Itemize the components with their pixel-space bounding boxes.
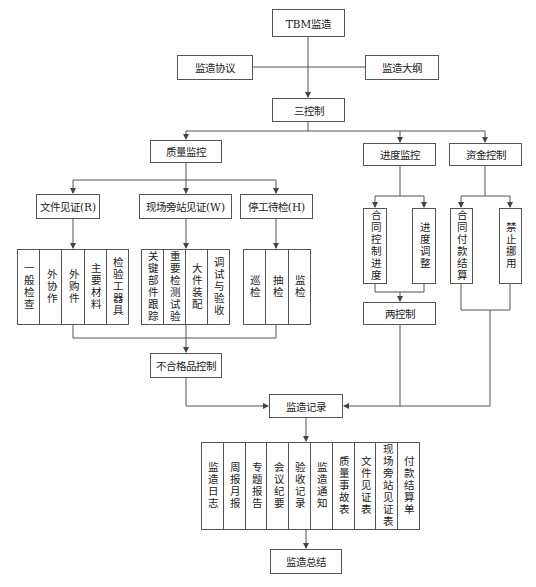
supervision-outline-node: 监造大纲: [365, 55, 439, 80]
three-controls-node: 三控制: [272, 98, 345, 122]
record-item: 会议纪要: [266, 443, 288, 529]
document-witness-node: 文件见证(R): [36, 194, 100, 219]
record-items: 监造日志 周报月报 专题报告 会议纪要 验收记录 监造通知 质量事故表 文件见证…: [201, 442, 420, 530]
two-controls-node: 两控制: [363, 302, 436, 325]
funds-control-node: 资金控制: [449, 143, 522, 166]
schedule-monitoring-node: 进度监控: [363, 143, 436, 166]
vertical-item: 重要检测试验: [163, 250, 185, 324]
vertical-item: 关键部件跟踪: [142, 250, 163, 324]
supervision-records-node: 监造记录: [269, 394, 343, 418]
hold-point-items: 巡检 抽检 监检: [243, 249, 311, 325]
vertical-item: 检验工器具: [106, 250, 128, 324]
record-item: 验收记录: [288, 443, 310, 529]
record-item: 监造通知: [310, 443, 332, 529]
vertical-item: 外购件: [61, 250, 83, 324]
vertical-item: 外协作: [39, 250, 61, 324]
vertical-item: 一般检查: [18, 250, 39, 324]
funds-item: 禁止挪用: [499, 208, 522, 284]
tbm-supervision-flowchart: TBM监造 监造协议 监造大纲 三控制 质量监控 进度监控 资金控制 文件见证(…: [0, 0, 536, 587]
nonconforming-control-node: 不合格品控制: [150, 353, 222, 378]
schedule-item: 合同控制进度: [363, 208, 387, 284]
vertical-item: 大件装配: [185, 250, 207, 324]
supervision-agreement-node: 监造协议: [177, 55, 253, 80]
record-item: 付款结算单: [397, 443, 419, 529]
vertical-item: 巡检: [244, 250, 265, 324]
quality-monitoring-node: 质量监控: [150, 140, 222, 163]
record-item: 专题报告: [245, 443, 267, 529]
record-item: 周报月报: [223, 443, 245, 529]
document-witness-items: 一般检查 外协作 外购件 主要材料 检验工器具: [17, 249, 129, 325]
funds-item: 合同付款结算: [450, 208, 473, 284]
vertical-item: 调试与验收: [207, 250, 229, 324]
record-item: 监造日志: [202, 443, 223, 529]
onsite-witness-items: 关键部件跟踪 重要检测试验 大件装配 调试与验收: [141, 249, 230, 325]
root-node: TBM监造: [272, 9, 345, 37]
record-item: 文件见证表: [354, 443, 376, 529]
vertical-item: 抽检: [265, 250, 287, 324]
schedule-item: 进度调整: [412, 208, 436, 284]
record-item: 现场旁站见证表: [375, 443, 397, 529]
hold-point-node: 停工待检(H): [240, 194, 313, 219]
record-item: 质量事故表: [332, 443, 354, 529]
onsite-witness-node: 现场旁站见证(W): [139, 194, 232, 219]
vertical-item: 监检: [288, 250, 310, 324]
supervision-summary-node: 监造总结: [270, 549, 342, 574]
vertical-item: 主要材料: [84, 250, 106, 324]
